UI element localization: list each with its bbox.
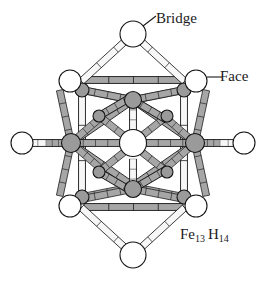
iron-atom-inner-lower-left bbox=[93, 166, 105, 178]
iron-atom-center bbox=[120, 130, 147, 157]
hydrogen-terminal-right bbox=[233, 132, 255, 154]
iron-atom-inner-upper-right bbox=[161, 110, 173, 122]
iron-atom-left bbox=[62, 134, 81, 153]
figure-page: .bond { stroke:#141414; stroke-width:0.9… bbox=[0, 0, 266, 285]
hydrogen-terminal-left bbox=[11, 132, 33, 154]
hydrogen-face-lower-left bbox=[59, 195, 81, 217]
bridge-label: Bridge bbox=[156, 11, 197, 26]
hydrogen-face-upper-left bbox=[59, 70, 81, 92]
iron-atom-inner-upper-left bbox=[93, 110, 105, 122]
iron-atom-upper-mid bbox=[125, 92, 142, 109]
hydrogen-face-lower-right bbox=[185, 195, 207, 217]
iron-atom-lower-mid bbox=[125, 181, 142, 198]
face-label: Face bbox=[220, 69, 248, 84]
formula-element-iron: Fe bbox=[180, 226, 195, 242]
hydrogen-bridge-bottom bbox=[120, 242, 146, 268]
formula-element-hydrogen: H bbox=[208, 226, 219, 242]
hydrogen-bridge-top bbox=[120, 21, 146, 47]
chemical-formula: Fe13H14 bbox=[180, 227, 229, 244]
iron-atom-right bbox=[186, 134, 205, 153]
iron-atom-inner-lower-right bbox=[161, 166, 173, 178]
formula-count-iron: 13 bbox=[195, 233, 205, 244]
formula-count-hydrogen: 14 bbox=[219, 233, 229, 244]
hydrogen-face-upper-right bbox=[185, 70, 207, 92]
